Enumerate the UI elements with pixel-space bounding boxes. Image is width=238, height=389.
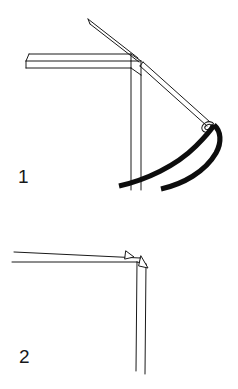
horizontal-beam	[26, 54, 131, 68]
vertical-post	[131, 68, 141, 190]
figure-1-group	[26, 19, 220, 190]
assembly-diagram-svg	[0, 0, 238, 389]
figure-2-label: 2	[19, 347, 30, 366]
shock-cord	[119, 125, 220, 189]
figure-1-label: 1	[18, 167, 29, 186]
diagram-page: 1 2	[0, 0, 238, 389]
direction-arrow-vertical	[139, 256, 148, 268]
vertical-post	[136, 262, 146, 374]
figure-2-group	[12, 251, 148, 374]
horizontal-beam	[12, 252, 140, 262]
tension-strut	[140, 62, 210, 126]
direction-arrow-horizontal	[125, 251, 134, 259]
